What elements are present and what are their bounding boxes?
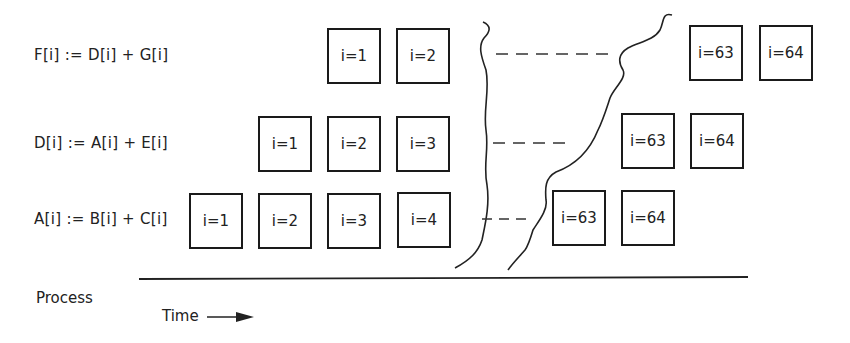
time-axis-line bbox=[139, 277, 748, 279]
time-arrow-icon bbox=[236, 312, 254, 322]
statement-row-a: A[i] := B[i] + C[i] bbox=[34, 210, 168, 228]
iteration-box: i=2 bbox=[396, 28, 450, 84]
iteration-box: i=63 bbox=[689, 25, 743, 81]
left-break-line bbox=[455, 22, 489, 268]
time-label: Time bbox=[162, 307, 199, 325]
process-label: Process bbox=[36, 289, 93, 307]
iteration-box: i=3 bbox=[396, 116, 450, 172]
iteration-box: i=64 bbox=[621, 190, 675, 246]
iteration-box: i=2 bbox=[258, 193, 312, 249]
iteration-box: i=1 bbox=[189, 193, 243, 249]
iteration-box: i=3 bbox=[327, 193, 381, 249]
statement-row-d: D[i] := A[i] + E[i] bbox=[34, 134, 168, 152]
statement-row-f: F[i] := D[i] + G[i] bbox=[34, 46, 168, 64]
iteration-box: i=1 bbox=[258, 116, 312, 172]
iteration-box: i=64 bbox=[690, 113, 744, 169]
iteration-box: i=2 bbox=[327, 116, 381, 172]
iteration-box: i=4 bbox=[397, 192, 451, 248]
iteration-box: i=63 bbox=[552, 190, 606, 246]
iteration-box: i=1 bbox=[327, 28, 381, 84]
iteration-box: i=63 bbox=[621, 113, 675, 169]
iteration-box: i=64 bbox=[759, 25, 813, 81]
